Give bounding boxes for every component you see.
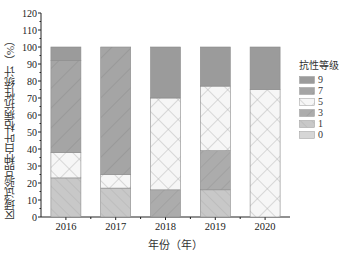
bar-segment-grade-5 (200, 86, 230, 151)
legend-label: 9 (318, 74, 323, 85)
y-tick-label: 40 (27, 144, 37, 155)
y-axis-label: 区域试验品种白叶枯病抗性统计（%） (2, 40, 18, 220)
y-tick-label: 70 (27, 93, 37, 104)
bar-segment-grade-7 (101, 47, 131, 175)
y-tick-label: 30 (27, 161, 37, 172)
y-tick-label: 90 (27, 59, 37, 70)
y-tick-label: 120 (22, 8, 37, 19)
legend-swatch-icon (299, 98, 315, 106)
bar-segment-grade-3 (200, 151, 230, 190)
bar-segment-grade-7 (51, 61, 81, 153)
y-tick-label: 0 (32, 212, 37, 223)
bar-segment-grade-1 (200, 190, 230, 217)
legend-swatch-icon (299, 120, 315, 128)
bar-segment-grade-9 (200, 47, 230, 86)
x-axis-label: 年份（年） (100, 236, 250, 252)
legend-item-grade-0: 0 (299, 129, 339, 140)
y-tick-label: 100 (22, 42, 37, 53)
x-tick-label: 2018 (155, 221, 176, 232)
x-tick-label: 2019 (205, 221, 226, 232)
legend-swatch-icon (299, 87, 315, 95)
bar-segment-grade-3 (151, 190, 181, 217)
x-tick-label: 2020 (255, 221, 276, 232)
stacked-bar-chart: 0102030405060708090100110120201620172018… (0, 0, 342, 253)
bar-segment-grade-9 (151, 47, 181, 98)
bar-segment-grade-1 (101, 188, 131, 217)
bar-segment-grade-9 (51, 47, 81, 61)
legend-item-grade-7: 7 (299, 85, 339, 96)
legend-label: 1 (318, 118, 323, 129)
y-tick-label: 60 (27, 110, 37, 121)
legend-title: 抗性等级 (299, 57, 339, 72)
bar-segment-grade-5 (101, 175, 131, 189)
bars (51, 47, 280, 217)
legend-swatch-icon (299, 76, 315, 84)
legend-item-grade-3: 3 (299, 107, 339, 118)
x-tick-label: 2017 (105, 221, 126, 232)
legend-label: 7 (318, 85, 323, 96)
y-tick-label: 110 (22, 25, 37, 36)
legend-swatch-icon (299, 131, 315, 139)
bar-segment-grade-5 (51, 152, 81, 178)
y-tick-label: 10 (27, 195, 37, 206)
legend-label: 0 (318, 129, 323, 140)
y-tick-label: 20 (27, 178, 37, 189)
x-tick-label: 2016 (55, 221, 76, 232)
bar-segment-grade-5 (151, 98, 181, 190)
legend-label: 3 (318, 107, 323, 118)
bar-segment-grade-9 (250, 47, 280, 90)
legend: 抗性等级 975310 (299, 57, 339, 140)
bar-segment-grade-5 (250, 90, 280, 218)
legend-label: 5 (318, 96, 323, 107)
legend-swatch-icon (299, 109, 315, 117)
legend-item-grade-5: 5 (299, 96, 339, 107)
y-tick-label: 80 (27, 76, 37, 87)
y-tick-label: 50 (27, 127, 37, 138)
legend-item-grade-1: 1 (299, 118, 339, 129)
bar-segment-grade-1 (51, 178, 81, 217)
legend-item-grade-9: 9 (299, 74, 339, 85)
